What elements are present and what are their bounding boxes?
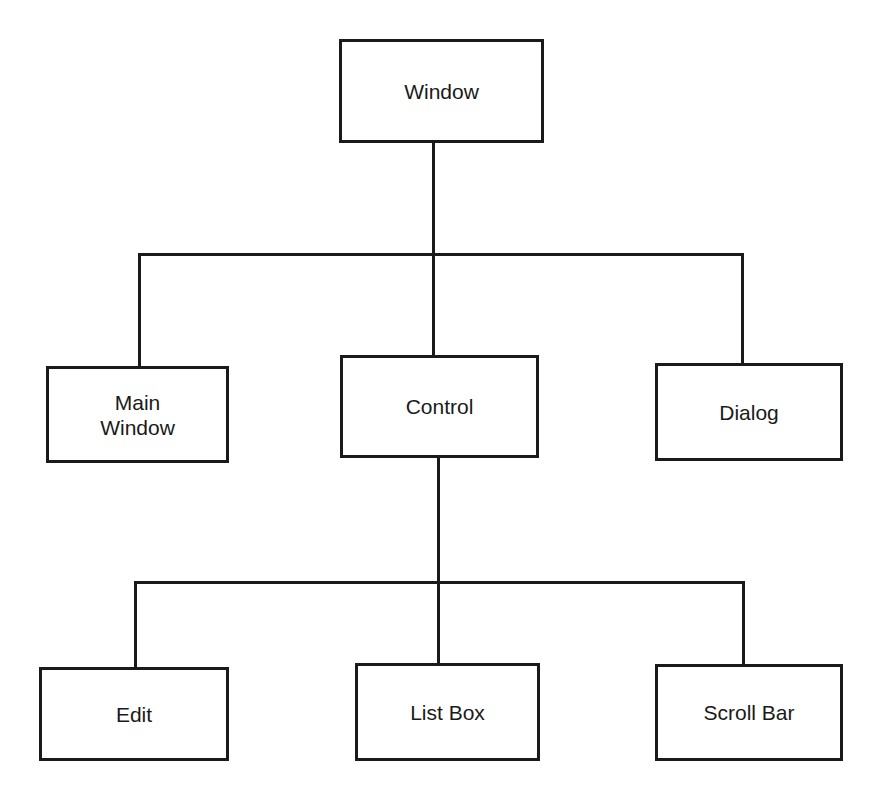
connector-control-drop xyxy=(432,253,435,357)
connector-dialog-drop xyxy=(741,253,744,365)
node-scroll-bar-label: Scroll Bar xyxy=(703,700,794,725)
connector-main-window-drop xyxy=(138,253,141,368)
node-edit-label: Edit xyxy=(116,702,152,727)
node-main-window: Main Window xyxy=(46,366,229,463)
node-main-window-label: Main Window xyxy=(100,390,175,440)
connector-edit-drop xyxy=(134,581,137,669)
node-list-box-label: List Box xyxy=(410,700,485,725)
connector-level1-bus xyxy=(138,253,744,256)
connector-control-stem xyxy=(437,456,440,583)
connector-scroll-bar-drop xyxy=(742,581,745,666)
node-control-label: Control xyxy=(406,394,474,419)
connector-list-box-drop xyxy=(437,581,440,665)
node-edit: Edit xyxy=(39,667,229,761)
connector-window-stem xyxy=(432,141,435,255)
node-dialog: Dialog xyxy=(655,363,843,461)
node-window-label: Window xyxy=(404,79,479,104)
node-list-box: List Box xyxy=(355,663,540,761)
node-dialog-label: Dialog xyxy=(719,400,779,425)
node-window: Window xyxy=(339,39,544,143)
node-scroll-bar: Scroll Bar xyxy=(655,664,843,761)
node-control: Control xyxy=(340,355,539,458)
